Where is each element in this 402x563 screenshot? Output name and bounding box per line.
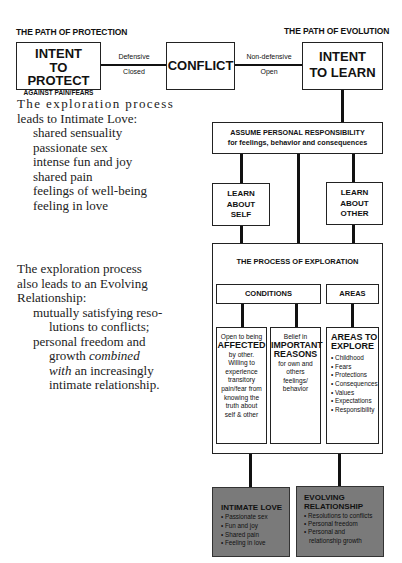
para2-line1: The exploration process: [17, 262, 207, 277]
line-self-to-process: [240, 226, 243, 244]
protect-line1: INTENT: [17, 47, 100, 61]
learn-about-self-box: LEARN ABOUT SELF: [212, 183, 270, 226]
area-item: • Consequences: [331, 380, 378, 389]
conditions-box: CONDITIONS: [216, 284, 321, 304]
protect-line2: TO PROTECT: [17, 61, 100, 88]
path-of-protection-header: THE PATH OF PROTECTION: [16, 27, 127, 37]
responsibility-box: ASSUME PERSONAL RESPONSIBILITY for feeli…: [212, 122, 383, 154]
evolving-item: • Personal and relationship growth: [304, 528, 371, 544]
areas-title2: EXPLORE: [331, 342, 378, 351]
love-item: • Fun and joy: [221, 522, 289, 531]
evolve-a2: lutions to conflicts;: [17, 320, 207, 335]
conflict-label: CONFLICT: [168, 59, 234, 73]
areas-list: • Childhood • Fears • Protections • Cons…: [331, 354, 378, 415]
reasons-emph2: REASONS: [271, 350, 320, 359]
responsibility-line2: for feelings, behavior and consequences: [213, 139, 382, 147]
area-item: • Expectations: [331, 397, 378, 406]
affected-emph: AFFECTED: [217, 341, 266, 350]
line-to-areas-explore: [351, 304, 354, 328]
learn-self-l3: SELF: [213, 210, 269, 221]
evolving-item: • Resolutions to conflicts: [304, 512, 383, 520]
evolving-list: • Resolutions to conflicts • Personal fr…: [304, 512, 383, 545]
line-to-reasons: [295, 304, 298, 328]
love-prose-list: shared sensuality passionate sex intense…: [17, 126, 207, 213]
evolving-title2: RELATIONSHIP: [304, 502, 383, 511]
area-item: • Responsibility: [331, 406, 378, 415]
areas-label: AREAS: [339, 290, 365, 298]
reasons-box: Belief in IMPORTANT REASONS for own and …: [270, 327, 321, 444]
love-prose-item: feeling in love: [33, 199, 207, 214]
conditions-label: CONDITIONS: [245, 290, 292, 298]
evolve-b3: with an increasingly: [17, 364, 207, 379]
closed-label: Closed: [101, 68, 167, 77]
love-prose-item: shared sensuality: [33, 126, 207, 141]
process-title: THE PROCESS OF EXPLORATION: [212, 258, 383, 266]
para2-line2: also leads to an Evolving: [17, 277, 207, 292]
area-item: • Protections: [331, 371, 378, 380]
love-item: • Shared pain: [221, 531, 289, 540]
line-to-learn-self: [240, 154, 243, 184]
learn-other-l2: ABOUT: [327, 199, 382, 210]
evolve-b2: growth combined: [17, 349, 207, 364]
connector-line-right: [235, 64, 303, 66]
evolving-relationship-box: EVOLVING RELATIONSHIP • Resolutions to c…: [296, 486, 384, 557]
non-defensive-label: Non-defensive: [235, 53, 303, 62]
area-item: • Childhood: [331, 354, 378, 363]
reasons-post: for own and others feelings/ behavior: [271, 360, 320, 394]
path-of-evolution-header: THE PATH OF EVOLUTION: [284, 26, 389, 36]
learn-self-l1: LEARN: [213, 189, 269, 200]
areas-box: AREAS: [326, 284, 379, 304]
evolve-b1: personal freedom and: [17, 335, 207, 350]
love-item: • Passionate sex: [221, 513, 289, 522]
learn-self-l2: ABOUT: [213, 200, 269, 211]
evolving-item: • Personal freedom: [304, 520, 383, 528]
connector-line-left: [101, 64, 167, 66]
intent-to-protect-box: INTENT TO PROTECT AGAINST PAIN/FEARS: [16, 42, 101, 90]
learn-line1: INTENT: [303, 50, 382, 64]
line-to-learn-other: [352, 154, 355, 184]
open-label: Open: [235, 68, 303, 77]
defensive-label: Defensive: [101, 53, 167, 62]
love-prose-item: intense fun and joy: [33, 155, 207, 170]
evolve-b4: intimate relationship.: [17, 378, 207, 393]
area-item: • Values: [331, 389, 378, 398]
intimate-love-list: • Passionate sex • Fun and joy • Shared …: [221, 513, 289, 547]
line-to-intimate-love: [249, 454, 252, 488]
line-center-down: [297, 154, 300, 244]
line-to-evolving: [338, 454, 341, 487]
para1-line2: leads to Intimate Love:: [17, 112, 207, 127]
para2-line3: Relationship:: [17, 291, 207, 306]
love-prose-item: feelings of well-being: [33, 184, 207, 199]
intent-to-learn-box: INTENT TO LEARN: [302, 42, 383, 90]
affected-box: Open to being AFFECTED by other. Willing…: [216, 327, 267, 444]
intimate-love-paragraph: The exploration process leads to Intimat…: [17, 97, 207, 213]
learn-line2: TO LEARN: [303, 66, 382, 80]
love-prose-item: passionate sex: [33, 141, 207, 156]
evolve-a1: mutually satisfying reso-: [17, 306, 207, 321]
love-prose-item: shared pain: [33, 170, 207, 185]
areas-to-explore-box: AREAS TO EXPLORE • Childhood • Fears • P…: [326, 327, 379, 444]
area-item: • Fears: [331, 363, 378, 372]
learn-to-responsibility-line: [341, 90, 344, 123]
responsibility-line1: ASSUME PERSONAL RESPONSIBILITY: [213, 129, 382, 137]
learn-other-l3: OTHER: [327, 209, 382, 220]
intimate-love-title: INTIMATE LOVE: [221, 504, 289, 512]
affected-post: by other. Willing to experience transito…: [217, 351, 266, 420]
evolving-paragraph: The exploration process also leads to an…: [17, 262, 207, 393]
line-to-affected: [241, 304, 244, 328]
learn-other-l1: LEARN: [327, 188, 382, 199]
learn-about-other-box: LEARN ABOUT OTHER: [326, 182, 383, 225]
line-other-to-process: [352, 225, 355, 244]
evolving-title1: EVOLVING: [304, 493, 383, 502]
love-item: • Feeling in love: [221, 539, 289, 548]
intimate-love-box: INTIMATE LOVE • Passionate sex • Fun and…: [212, 487, 290, 557]
para1-line1: The exploration process: [17, 97, 207, 112]
conflict-box: CONFLICT: [166, 42, 235, 90]
